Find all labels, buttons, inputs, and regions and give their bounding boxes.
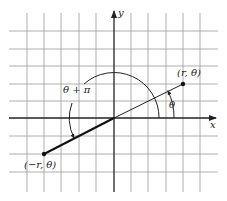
x-axis-label: x xyxy=(210,120,216,130)
theta-label: θ xyxy=(169,100,175,110)
theta-plus-pi-label: θ + π xyxy=(63,85,90,95)
point-neg-r-theta xyxy=(42,152,46,156)
point-r-theta-label: (r, θ) xyxy=(177,68,201,78)
polar-diagram xyxy=(0,0,227,201)
point-neg-r-theta-label: (−r, θ) xyxy=(24,160,56,170)
point-r-theta xyxy=(181,82,185,86)
theta-plus-pi-arc-lower xyxy=(69,103,74,138)
y-axis-label: y xyxy=(118,8,124,18)
